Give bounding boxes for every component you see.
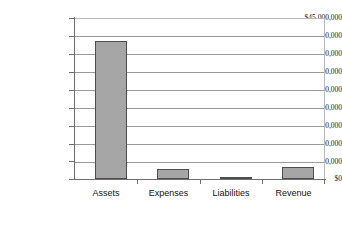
x-axis-label-revenue: Revenue xyxy=(262,188,325,199)
x-axis-tick-mark xyxy=(200,180,201,184)
gridline xyxy=(75,36,324,37)
bar-assets xyxy=(95,41,127,179)
bar-expenses xyxy=(157,169,189,179)
x-axis-label-assets: Assets xyxy=(75,188,137,199)
plot-area xyxy=(75,18,325,179)
x-axis-tick-mark xyxy=(324,180,325,184)
bar-chart-figure: $45,000,000 $40,000,000 $35,000,000 $30,… xyxy=(0,0,342,227)
y-axis-line xyxy=(74,17,75,180)
x-axis-label-liabilities: Liabilities xyxy=(200,188,262,199)
x-axis-tick-mark xyxy=(137,180,138,184)
x-axis-tick-mark xyxy=(262,180,263,184)
bar-revenue xyxy=(282,167,314,179)
x-axis-label-expenses: Expenses xyxy=(137,188,200,199)
